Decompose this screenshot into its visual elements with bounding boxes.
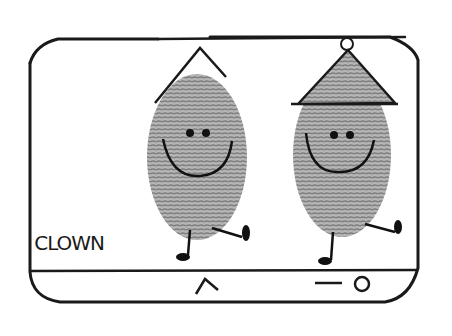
pompom <box>341 38 353 50</box>
sketch-canvas <box>0 0 452 336</box>
left-clown <box>147 48 250 261</box>
fingerprint-body <box>147 74 247 240</box>
caption-label: CLOWN <box>34 232 103 254</box>
caret-up-icon[interactable] <box>196 279 218 294</box>
arrow-circle-icon[interactable] <box>315 277 369 291</box>
right-clown <box>291 38 402 265</box>
triangle-hat <box>291 50 398 104</box>
